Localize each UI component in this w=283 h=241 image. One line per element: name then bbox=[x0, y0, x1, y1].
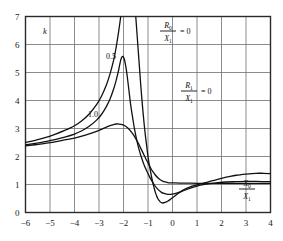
x-tick-label: 4 bbox=[268, 218, 273, 228]
curve-label-0-5: 0.5 bbox=[106, 52, 116, 61]
y-axis-title: k bbox=[43, 26, 47, 36]
x-tick-label: −2 bbox=[119, 218, 129, 228]
chart-background bbox=[0, 0, 283, 241]
x-tick-label: −5 bbox=[45, 218, 55, 228]
y-tick-label: 1 bbox=[15, 180, 20, 190]
k-axis-label: k bbox=[43, 26, 47, 36]
y-tick-label: 6 bbox=[15, 40, 20, 50]
x-tick-label: 3 bbox=[244, 218, 249, 228]
x-tick-label: −6 bbox=[21, 218, 31, 228]
chart-svg: −6−5−4−3−2−101234 01234567 0.51.0 R0X1= … bbox=[0, 0, 283, 241]
x-tick-label: 1 bbox=[195, 218, 200, 228]
x-tick-label: −3 bbox=[94, 218, 104, 228]
y-tick-label: 4 bbox=[15, 96, 20, 106]
annotation-equals: = 0 bbox=[201, 87, 212, 96]
chart-figure: −6−5−4−3−2−101234 01234567 0.51.0 R0X1= … bbox=[0, 0, 283, 241]
annotation-equals: = 0 bbox=[180, 27, 191, 36]
curve-label-1-0: 1.0 bbox=[88, 110, 98, 119]
x-tick-label: −4 bbox=[70, 218, 80, 228]
y-tick-label: 0 bbox=[15, 208, 20, 218]
x-tick-label: 2 bbox=[219, 218, 224, 228]
x-tick-label: −1 bbox=[143, 218, 153, 228]
y-tick-label: 5 bbox=[15, 68, 20, 78]
x-tick-label: 0 bbox=[170, 218, 175, 228]
y-tick-label: 2 bbox=[15, 152, 20, 162]
y-tick-label: 3 bbox=[15, 124, 20, 134]
y-tick-label: 7 bbox=[15, 12, 20, 22]
